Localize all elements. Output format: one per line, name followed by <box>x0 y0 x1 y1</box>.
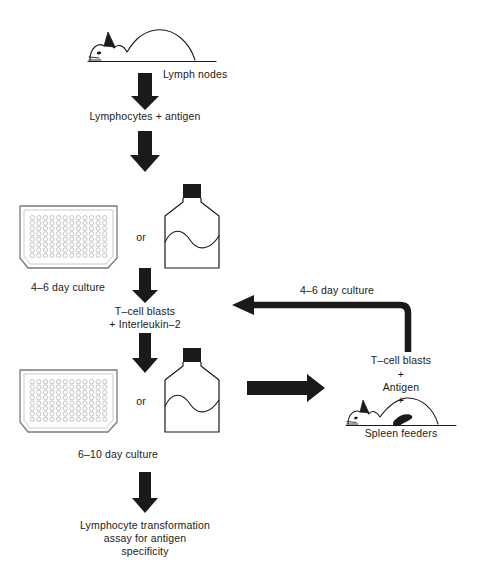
label-tcell-blasts-right: T–cell blasts <box>371 354 431 367</box>
label-culture-4-6-left: 4–6 day culture <box>31 281 105 294</box>
label-or-top: or <box>136 231 146 244</box>
down-arrow-icon <box>132 333 158 373</box>
label-plus-2: + <box>398 394 404 407</box>
microtiter-plate-icon <box>20 206 117 268</box>
feedback-elbow-arrow-icon <box>232 295 408 352</box>
label-assay-line-1: Lymphocyte transformation <box>80 519 210 532</box>
label-lymph-nodes: Lymph nodes <box>163 68 227 81</box>
label-plus-1: + <box>398 368 404 381</box>
down-arrow-icon <box>130 131 160 172</box>
down-arrow-icon <box>131 73 159 110</box>
label-spleen-feeders: Spleen feeders <box>365 427 438 440</box>
label-lymphocytes-antigen: Lymphocytes + antigen <box>89 110 200 123</box>
label-assay-line-2: assay for antigen <box>104 532 187 545</box>
down-arrow-icon <box>132 472 158 513</box>
right-arrow-icon <box>247 374 325 402</box>
label-or-bottom: or <box>136 395 146 408</box>
label-culture-4-6-right: 4–6 day culture <box>300 284 374 297</box>
culture-flask-icon <box>165 184 219 268</box>
figure-canvas: Lymph nodes Lymphocytes + antigen or 4–6… <box>0 0 479 581</box>
mouse-icon <box>88 30 216 62</box>
microtiter-plate-icon <box>20 370 117 432</box>
label-culture-6-10: 6–10 day culture <box>78 448 158 461</box>
label-tcell-blasts: T–cell blasts <box>115 305 175 318</box>
label-antigen: Antigen <box>383 381 420 394</box>
label-interleukin-2: + Interleukin–2 <box>109 318 180 331</box>
culture-flask-icon <box>165 348 219 432</box>
label-assay-line-3: specificity <box>121 545 168 558</box>
down-arrow-icon <box>132 268 158 303</box>
